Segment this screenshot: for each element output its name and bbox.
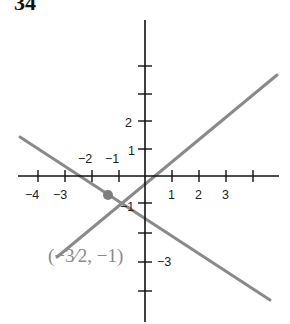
y-label-2: 2 — [125, 116, 132, 130]
x-label-neg4: −4 — [25, 188, 39, 202]
y-label-1: 1 — [128, 144, 135, 158]
x-label-3: 3 — [222, 188, 229, 202]
x-label-neg3: −3 — [53, 188, 67, 202]
y-label-neg1: −1 — [120, 200, 134, 214]
increasing-line — [57, 75, 277, 257]
coordinate-plane: −4 −3 −2 −1 1 2 3 1 2 −1 −3 (−3⁄2, −1) — [0, 0, 290, 324]
x-label-neg1: −1 — [105, 152, 119, 166]
x-label-1: 1 — [168, 188, 175, 202]
x-label-2: 2 — [195, 188, 202, 202]
intersection-label: (−3⁄2, −1) — [48, 245, 123, 267]
intersection-point — [103, 190, 113, 200]
y-label-neg3: −3 — [157, 255, 171, 269]
x-label-neg2: −2 — [78, 152, 92, 166]
